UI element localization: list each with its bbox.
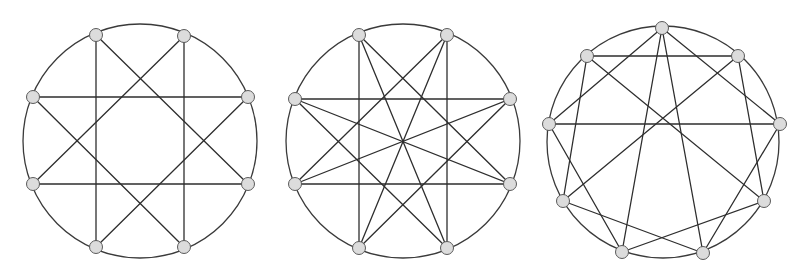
vertex-node-5 [353, 242, 366, 255]
vertex-node-7 [289, 93, 302, 106]
circular-graph-3 [543, 22, 787, 260]
edge-0-7 [549, 28, 662, 124]
vertex-node-7 [27, 91, 40, 104]
edge-4-7 [295, 99, 447, 248]
vertex-node-3 [758, 195, 771, 208]
edge-0-5 [622, 28, 662, 252]
vertex-node-5 [90, 241, 103, 254]
vertex-node-1 [441, 29, 454, 42]
vertex-node-6 [289, 178, 302, 191]
vertex-node-1 [178, 30, 191, 43]
edge-0-3 [96, 35, 248, 184]
vertex-node-6 [557, 195, 570, 208]
vertex-node-0 [656, 22, 669, 35]
edge-0-2 [662, 28, 780, 124]
vertex-node-5 [616, 246, 629, 259]
vertex-node-4 [178, 241, 191, 254]
edge-6-1 [33, 36, 184, 184]
outer-circle [547, 26, 779, 258]
vertex-node-4 [441, 242, 454, 255]
vertex-node-3 [504, 178, 517, 191]
edge-2-5 [359, 99, 510, 248]
vertex-node-8 [581, 50, 594, 63]
vertex-node-1 [732, 50, 745, 63]
edge-2-4 [703, 124, 780, 253]
edge-0-4 [662, 28, 703, 253]
edge-0-3 [359, 35, 510, 184]
edge-6-1 [295, 35, 447, 184]
edge-5-7 [549, 124, 622, 252]
vertex-node-2 [774, 118, 787, 131]
vertex-node-2 [242, 91, 255, 104]
vertex-node-6 [27, 178, 40, 191]
outer-circle [23, 24, 257, 258]
vertex-node-2 [504, 93, 517, 106]
edge-3-8 [587, 56, 764, 201]
edge-1-6 [563, 56, 738, 201]
graph-figure [0, 0, 805, 275]
vertex-node-0 [90, 29, 103, 42]
circular-graph-1 [23, 24, 257, 258]
circular-graph-2 [286, 24, 520, 258]
edge-2-5 [96, 97, 248, 247]
vertex-node-7 [543, 118, 556, 131]
edge-4-7 [33, 97, 184, 247]
vertex-node-0 [353, 29, 366, 42]
vertex-node-3 [242, 178, 255, 191]
vertex-node-4 [697, 247, 710, 260]
